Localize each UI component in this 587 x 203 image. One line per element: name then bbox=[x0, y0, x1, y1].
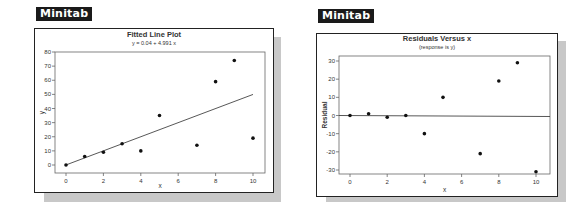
data-point bbox=[385, 116, 389, 120]
x-tick-label: 8 bbox=[497, 179, 501, 185]
y-tick-label: -10 bbox=[326, 131, 335, 137]
y-tick-label: 0 bbox=[332, 113, 336, 119]
y-tick-label: 20 bbox=[328, 76, 335, 82]
y-axis-label: Residual bbox=[321, 101, 328, 128]
data-point bbox=[367, 112, 371, 116]
data-point bbox=[497, 79, 501, 83]
data-point bbox=[441, 96, 445, 100]
y-tick-label: 30 bbox=[328, 58, 335, 64]
x-tick-label: 0 bbox=[348, 179, 352, 185]
data-point bbox=[478, 152, 482, 156]
data-point bbox=[348, 114, 352, 118]
data-point bbox=[516, 61, 520, 65]
y-tick-label: 10 bbox=[328, 94, 335, 100]
x-tick-label: 6 bbox=[460, 179, 464, 185]
x-tick-label: 10 bbox=[533, 179, 540, 185]
x-tick-label: 4 bbox=[423, 179, 427, 185]
x-axis-label: x bbox=[443, 186, 447, 193]
data-point bbox=[534, 170, 538, 174]
chart-subtitle: (response is y) bbox=[419, 44, 455, 50]
plot-area bbox=[339, 56, 550, 174]
data-point bbox=[404, 114, 408, 118]
residuals-versus-x-plot: Residuals Versus x(response is y)0246810… bbox=[0, 0, 587, 203]
data-point bbox=[423, 132, 427, 136]
y-tick-label: -30 bbox=[326, 167, 335, 173]
y-tick-label: -20 bbox=[326, 149, 335, 155]
x-tick-label: 2 bbox=[386, 179, 390, 185]
chart-title: Residuals Versus x bbox=[403, 34, 472, 43]
